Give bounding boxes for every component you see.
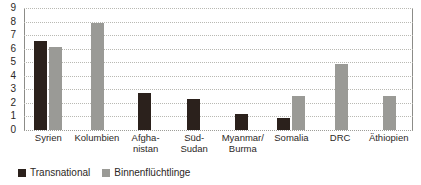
bar-chart: 0123456789 SyrienKolumbienAfgha- nistanS… [0, 0, 421, 185]
legend-swatch-icon [102, 169, 110, 177]
bar-group [316, 8, 365, 130]
bar-0 [277, 118, 290, 130]
x-tick-label: Süd- Sudan [170, 132, 219, 154]
y-tick-label-0: 0 [0, 125, 16, 135]
y-tick-label-8: 8 [0, 17, 16, 27]
bars-layer [24, 8, 413, 130]
bar-group [364, 8, 413, 130]
x-tick-label: Äthiopien [364, 132, 413, 143]
x-axis-labels: SyrienKolumbienAfgha- nistanSüd- SudanMy… [24, 132, 413, 162]
plot-area [24, 8, 413, 130]
x-tick-label: Afgha- nistan [121, 132, 170, 154]
legend-item: Transnational [18, 167, 90, 178]
bar-0 [235, 114, 248, 130]
legend-item: Binnenflüchtlinge [102, 167, 190, 178]
gridline-0 [24, 130, 413, 131]
bar-group [24, 8, 73, 130]
x-tick-label: DRC [316, 132, 365, 143]
y-tick-label-9: 9 [0, 3, 16, 13]
bar-0 [187, 99, 200, 130]
bar-1 [49, 47, 62, 130]
bar-1 [292, 96, 305, 130]
y-tick-label-1: 1 [0, 111, 16, 121]
legend-label: Transnational [30, 167, 90, 178]
bar-group [73, 8, 122, 130]
x-tick-label: Myanmar/ Burma [219, 132, 268, 154]
bar-group [267, 8, 316, 130]
y-tick-label-6: 6 [0, 44, 16, 54]
bar-group [170, 8, 219, 130]
x-tick-label: Somalia [267, 132, 316, 143]
legend-swatch-icon [18, 169, 26, 177]
bar-group [121, 8, 170, 130]
y-axis-labels: 0123456789 [0, 8, 20, 130]
x-tick-label: Syrien [24, 132, 73, 143]
y-tick-label-5: 5 [0, 57, 16, 67]
bar-1 [383, 96, 396, 130]
y-tick-label-7: 7 [0, 30, 16, 40]
bar-1 [335, 64, 348, 130]
chart-legend: TransnationalBinnenflüchtlinge [18, 167, 190, 178]
bar-0 [34, 41, 47, 130]
x-tick-label: Kolumbien [73, 132, 122, 143]
y-tick-label-2: 2 [0, 98, 16, 108]
bar-group [219, 8, 268, 130]
bar-1 [91, 23, 104, 130]
bar-0 [138, 93, 151, 130]
y-tick-label-3: 3 [0, 84, 16, 94]
y-tick-label-4: 4 [0, 71, 16, 81]
legend-label: Binnenflüchtlinge [114, 167, 190, 178]
